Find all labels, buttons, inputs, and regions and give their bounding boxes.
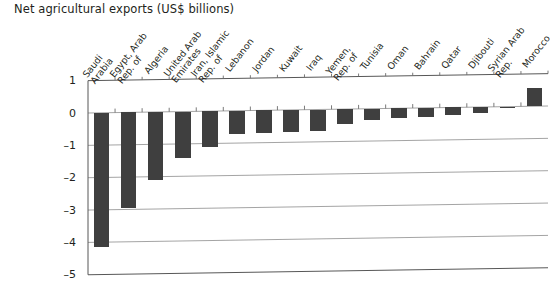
bar bbox=[94, 113, 110, 247]
bar bbox=[364, 109, 380, 120]
bar bbox=[337, 109, 353, 124]
bar bbox=[202, 111, 218, 147]
y-axis-tick-label: 0 bbox=[0, 108, 76, 119]
y-axis-tick-label: 1 bbox=[0, 75, 76, 86]
bar bbox=[527, 88, 543, 106]
plot-area: 10–1–2–3–4–5Saudi ArabiaEgypt, Arab Rep.… bbox=[0, 0, 554, 282]
y-axis-tick-label: –2 bbox=[0, 172, 76, 183]
bar bbox=[283, 110, 299, 132]
bar bbox=[473, 107, 489, 113]
y-axis-tick-label: –4 bbox=[0, 237, 76, 248]
chart-axes bbox=[0, 0, 554, 282]
bar bbox=[121, 112, 137, 207]
bar bbox=[500, 107, 516, 109]
y-axis-tick-label: –1 bbox=[0, 140, 76, 151]
bar bbox=[418, 108, 434, 117]
bar bbox=[175, 112, 191, 159]
bar bbox=[229, 111, 245, 134]
bar bbox=[148, 112, 164, 180]
bar bbox=[445, 107, 461, 114]
bar bbox=[310, 110, 326, 131]
y-axis-tick-label: –3 bbox=[0, 205, 76, 216]
net-agricultural-exports-chart: Net agricultural exports (US$ billions) … bbox=[0, 0, 554, 282]
bar bbox=[391, 108, 407, 118]
y-axis-tick-label: –5 bbox=[0, 269, 76, 280]
bar bbox=[256, 110, 272, 133]
